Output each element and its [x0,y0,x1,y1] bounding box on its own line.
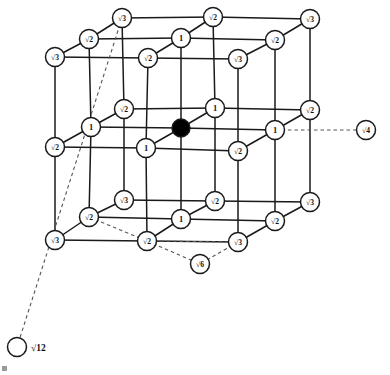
lattice-site-node[interactable]: √2 [46,138,65,157]
center-atom-node[interactable] [172,119,190,137]
lattice-edge [124,108,215,109]
lattice-edge [55,57,148,58]
node-label: 1 [89,122,93,132]
node-label: √2 [234,147,242,156]
lattice-edge [215,201,310,202]
lattice-edge [89,39,91,127]
lattice-site-node[interactable]: 1 [82,118,101,137]
node-label: √3 [118,14,126,23]
lattice-site-node[interactable]: √2 [139,49,158,68]
lattice-site-node[interactable]: √2 [266,31,285,50]
lattice-edge [146,58,148,148]
node-label: √2 [306,106,314,115]
lattice-site-node[interactable]: √3 [301,10,320,29]
lattice-edge [124,200,215,201]
lattice-site-node[interactable]: √2 [229,142,248,161]
lattice-site-node[interactable]: 1 [172,29,191,48]
figure-canvas: √3√2√3√21√2√3√2√3√21√211√21√2√3√2√3√21√2… [0,0,390,375]
lattice-site-node[interactable]: √3 [115,191,134,210]
external-node-label: √12 [31,343,46,353]
node-label: √2 [120,105,128,114]
lattice-site-node[interactable]: √2 [266,212,285,231]
lattice-site-node[interactable]: √3 [301,193,320,212]
lattice-site-node[interactable]: √3 [113,9,132,28]
lattice-edge [122,18,124,109]
lattice-edge [181,38,275,40]
lattice-edge [89,38,181,39]
lattice-site-node[interactable]: √2 [115,100,134,119]
sqrt4-node[interactable]: √4 [357,121,376,140]
lattice-edge [181,219,275,221]
lattice-edge [146,148,238,151]
node-label: √3 [120,196,128,205]
node-label: √2 [211,197,219,206]
lattice-site-node[interactable]: √2 [301,101,320,120]
lattice-edge [55,147,146,148]
lattice-edge [89,217,181,219]
node-label: 1 [273,125,277,135]
lattice-edge [89,127,91,217]
lattice-site-node[interactable]: 1 [137,139,156,158]
lattice-site-node[interactable]: 1 [172,210,191,229]
sqrt6-node[interactable]: √6 [191,255,210,274]
node-label: √2 [85,35,93,44]
lattice-site-node[interactable]: √3 [229,233,248,252]
sqrt12-node[interactable]: √12 [8,338,46,357]
lattice-diagram: √3√2√3√21√2√3√2√3√21√211√21√2√3√2√3√21√2… [0,0,390,375]
lattice-site-node[interactable]: √2 [80,208,99,227]
node-label: √2 [85,213,93,222]
lattice-leader-lines [17,18,366,347]
node-label: √3 [51,236,59,245]
lattice-site-node[interactable]: 1 [206,99,225,118]
lattice-site-node[interactable]: 1 [266,121,285,140]
node-label: √2 [144,54,152,63]
leader-sqrt12 [17,18,122,347]
node-label: √3 [234,55,242,64]
external-node-label: √4 [362,126,370,135]
lattice-site-node[interactable]: √3 [229,50,248,69]
lattice-site-node[interactable]: √2 [138,232,157,251]
lattice-edge [55,240,147,241]
lattice-site-node[interactable]: √2 [206,192,225,211]
node-label: √3 [51,53,59,62]
lattice-edge [213,17,215,108]
node-label: 1 [213,103,217,113]
lattice-edge [122,17,213,18]
lattice-site-node[interactable]: √3 [46,48,65,67]
lattice-edge [146,148,147,241]
node-label: √3 [234,238,242,247]
lattice-nodes: √3√2√3√21√2√3√2√3√21√211√21√2√3√2√3√21√2… [46,8,320,252]
node-label: √3 [306,198,314,207]
node-label: √2 [51,143,59,152]
lattice-site-node[interactable]: √2 [204,8,223,27]
lattice-edge [181,128,275,130]
node-label: √2 [143,237,151,246]
node-label: √3 [306,15,314,24]
lattice-site-node[interactable]: √2 [80,30,99,49]
node-label: 1 [144,143,148,153]
node-label: √2 [271,36,279,45]
node-label: √2 [209,13,217,22]
lattice-edge [91,127,181,128]
node-label: √2 [271,217,279,226]
lattice-edge [213,17,310,19]
lattice-site-node[interactable]: √3 [46,231,65,250]
node-label: 1 [179,214,183,224]
lattice-edge [215,108,310,110]
lattice-edge [148,58,238,59]
node-label: 1 [179,33,183,43]
scan-corner-mark [2,366,7,371]
external-node-label: √6 [196,260,204,269]
